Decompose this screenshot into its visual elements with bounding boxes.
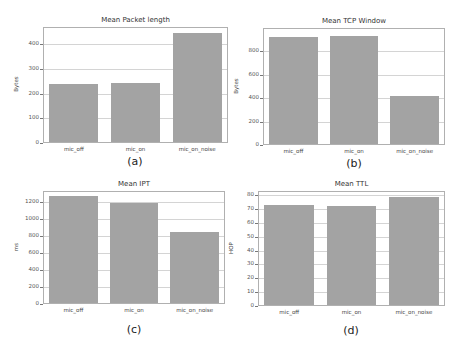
bar-mic-on: [330, 36, 379, 144]
y-tick-mark: [40, 202, 43, 203]
x-tick-label: mic_off: [258, 309, 320, 315]
y-tick-label: 0: [239, 141, 259, 147]
y-tick-label: 200: [19, 283, 39, 289]
y-tick-label: 1200: [19, 198, 39, 204]
y-tick-mark: [40, 94, 43, 95]
y-tick-mark: [40, 219, 43, 220]
y-tick-label: 70: [234, 205, 254, 211]
y-tick-mark: [260, 122, 263, 123]
y-tick-mark: [255, 209, 258, 210]
y-tick-label: 50: [234, 233, 254, 239]
bar-mic-off: [264, 205, 314, 305]
x-tick-label: mic_off: [43, 307, 104, 313]
x-tick-label: mic_on: [320, 309, 382, 315]
y-tick-mark: [255, 264, 258, 265]
bar-mic-off: [269, 37, 318, 144]
subfigure-caption: (d): [331, 324, 371, 337]
y-tick-label: 100: [19, 114, 39, 120]
y-tick-label: 0: [234, 302, 254, 308]
bar-mic-off: [49, 196, 98, 303]
y-tick-mark: [40, 118, 43, 119]
y-tick-mark: [255, 251, 258, 252]
subfigure-caption: (b): [334, 157, 374, 170]
y-tick-label: 400: [239, 94, 259, 100]
bar-mic-on: [110, 203, 159, 303]
y-tick-label: 40: [234, 247, 254, 253]
x-tick-label: mic_on_noise: [383, 309, 445, 315]
y-tick-label: 0: [19, 300, 39, 306]
chart-title: Mean Packet length: [43, 16, 228, 24]
x-tick-label: mic_on_noise: [164, 307, 225, 313]
x-tick-label: mic_off: [43, 146, 105, 152]
chart-title: Mean TCP Window: [263, 17, 445, 25]
x-tick-label: mic_on_noise: [166, 146, 228, 152]
y-tick-mark: [40, 236, 43, 237]
bar-mic-on-noise: [173, 33, 222, 142]
x-tick-label: mic_on_noise: [384, 148, 445, 154]
bar-mic-off: [49, 84, 98, 142]
y-tick-mark: [260, 145, 263, 146]
y-tick-mark: [260, 75, 263, 76]
y-tick-label: 10: [234, 288, 254, 294]
y-tick-label: 800: [239, 47, 259, 53]
y-tick-label: 80: [234, 191, 254, 197]
chart-title: Mean IPT: [43, 180, 225, 188]
y-tick-label: 300: [19, 65, 39, 71]
y-tick-mark: [260, 98, 263, 99]
y-tick-mark: [40, 44, 43, 45]
x-tick-label: mic_off: [263, 148, 324, 154]
bar-mic-on-noise: [170, 232, 219, 303]
bar-mic-on: [111, 83, 160, 142]
y-tick-mark: [40, 287, 43, 288]
y-tick-label: 400: [19, 40, 39, 46]
y-axis-label: Bytes: [233, 71, 239, 101]
y-axis-label: Bytes: [13, 69, 19, 99]
bar-mic-on-noise: [389, 197, 439, 305]
y-tick-label: 0: [19, 139, 39, 145]
y-tick-mark: [40, 253, 43, 254]
y-tick-label: 400: [19, 266, 39, 272]
bar-mic-on: [327, 206, 377, 305]
x-tick-label: mic_on: [105, 146, 167, 152]
y-tick-label: 1000: [19, 215, 39, 221]
y-tick-mark: [40, 304, 43, 305]
y-tick-mark: [40, 143, 43, 144]
y-tick-label: 60: [234, 219, 254, 225]
y-tick-mark: [260, 51, 263, 52]
y-tick-label: 600: [239, 71, 259, 77]
y-tick-mark: [40, 270, 43, 271]
y-tick-mark: [255, 278, 258, 279]
subfigure-caption: (c): [114, 323, 154, 336]
y-tick-label: 30: [234, 260, 254, 266]
chart-title: Mean TTL: [258, 180, 445, 188]
y-tick-label: 600: [19, 249, 39, 255]
y-tick-mark: [255, 237, 258, 238]
bar-mic-on-noise: [390, 96, 439, 144]
y-tick-mark: [255, 306, 258, 307]
y-tick-mark: [255, 223, 258, 224]
y-axis-label: HOP: [228, 233, 234, 263]
y-tick-label: 800: [19, 232, 39, 238]
y-axis-label: ms: [13, 232, 19, 262]
y-tick-mark: [40, 69, 43, 70]
subfigure-caption: (a): [115, 155, 155, 168]
x-tick-label: mic_on: [104, 307, 165, 313]
y-tick-mark: [255, 195, 258, 196]
y-tick-label: 200: [19, 90, 39, 96]
y-tick-label: 20: [234, 274, 254, 280]
x-tick-label: mic_on: [324, 148, 385, 154]
y-tick-label: 200: [239, 118, 259, 124]
y-tick-mark: [255, 292, 258, 293]
